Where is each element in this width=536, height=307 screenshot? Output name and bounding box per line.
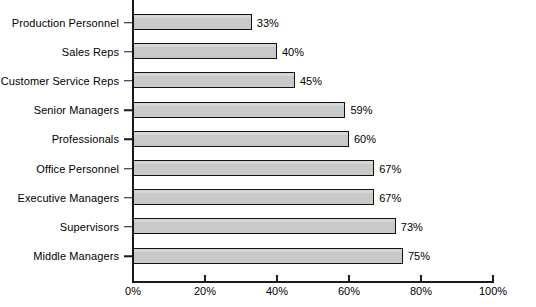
bar-value-label: 45% [300, 75, 322, 86]
bar-chart: Production Personnel33%Sales Reps40%Cust… [0, 0, 536, 307]
bar-value-label: 75% [408, 251, 430, 262]
bar-highlight [134, 161, 373, 164]
value-axis-tick-label: 100% [479, 286, 507, 297]
category-tick-mark [124, 22, 132, 24]
bar-highlight [134, 219, 395, 222]
category-label: Sales Reps [62, 46, 119, 57]
bar-highlight [134, 15, 251, 18]
category-label: Executive Managers [18, 192, 119, 203]
value-axis-tick [204, 275, 206, 282]
bar-row: Sales Reps40% [0, 43, 536, 60]
value-axis-tick [132, 275, 134, 282]
category-label: Senior Managers [34, 105, 119, 116]
bar-highlight [134, 44, 276, 47]
value-axis-line [132, 281, 494, 283]
value-axis-tick [492, 275, 494, 282]
bar [133, 43, 277, 59]
category-tick-mark [124, 51, 132, 53]
bar-highlight [134, 249, 402, 252]
bar-highlight [134, 190, 373, 193]
value-axis-tick [420, 275, 422, 282]
bar-row: Production Personnel33% [0, 14, 536, 31]
plot-area: Production Personnel33%Sales Reps40%Cust… [0, 0, 536, 307]
bar-row: Senior Managers59% [0, 102, 536, 119]
bar-value-label: 59% [350, 105, 372, 116]
category-label: Middle Managers [33, 251, 119, 262]
bar [133, 14, 252, 30]
bar-value-label: 40% [282, 46, 304, 57]
category-tick-mark [124, 255, 132, 257]
category-tick-mark [124, 197, 132, 199]
bar-row: Professionals60% [0, 131, 536, 148]
bar-row: Middle Managers75% [0, 248, 536, 265]
bar-row: Supervisors73% [0, 218, 536, 235]
value-axis-tick-label: 60% [338, 286, 360, 297]
bar-value-label: 73% [401, 221, 423, 232]
category-tick-mark [124, 80, 132, 82]
category-tick-mark [124, 109, 132, 111]
value-axis-tick-label: 0% [125, 286, 141, 297]
category-label: Customer Service Reps [1, 75, 119, 86]
bar [133, 160, 374, 176]
bar-row: Office Personnel67% [0, 160, 536, 177]
bar [133, 131, 349, 147]
bar [133, 248, 403, 264]
value-axis-tick [348, 275, 350, 282]
bar-value-label: 33% [257, 17, 279, 28]
bar [133, 72, 295, 88]
category-label: Production Personnel [12, 17, 119, 28]
bar-value-label: 67% [379, 192, 401, 203]
bar-highlight [134, 132, 348, 135]
value-axis-tick-label: 40% [266, 286, 288, 297]
category-tick-mark [124, 226, 132, 228]
bar-value-label: 67% [379, 163, 401, 174]
category-label: Supervisors [60, 221, 119, 232]
category-label: Office Personnel [36, 163, 119, 174]
bar [133, 218, 396, 234]
value-axis-tick [276, 275, 278, 282]
bar [133, 189, 374, 205]
bar-row: Executive Managers67% [0, 189, 536, 206]
category-tick-mark [124, 168, 132, 170]
bar-highlight [134, 103, 344, 106]
category-tick-mark [124, 139, 132, 141]
bar-row: Customer Service Reps45% [0, 72, 536, 89]
bar-highlight [134, 73, 294, 76]
category-label: Professionals [52, 134, 119, 145]
bar-value-label: 60% [354, 134, 376, 145]
value-axis-tick-label: 80% [410, 286, 432, 297]
bar [133, 102, 345, 118]
value-axis-tick-label: 20% [194, 286, 216, 297]
